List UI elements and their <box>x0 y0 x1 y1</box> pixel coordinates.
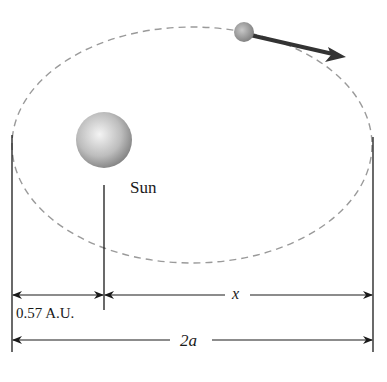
major-axis-label: 2a <box>180 331 197 350</box>
x-label: x <box>231 285 239 302</box>
orbit-ellipse <box>12 27 372 263</box>
comet-icon <box>234 22 254 42</box>
orbit-diagram: Sun 0.57 A.U. x 2a <box>0 0 387 382</box>
sun-icon <box>76 112 132 168</box>
sun-label: Sun <box>130 178 157 197</box>
perihelion-label: 0.57 A.U. <box>16 305 74 321</box>
velocity-arrow <box>250 35 333 54</box>
